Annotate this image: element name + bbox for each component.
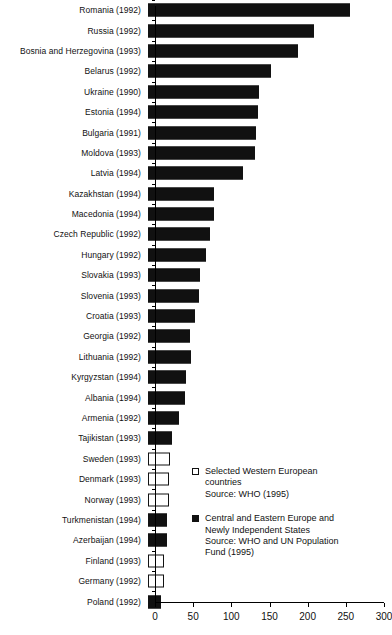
chart-row: Macedonia (1994)	[0, 204, 392, 224]
bar	[148, 473, 169, 486]
chart-row: Czech Republic (1992)	[0, 224, 392, 244]
bar-track	[148, 61, 392, 81]
chart-row: Bulgaria (1991)	[0, 122, 392, 142]
bar	[148, 106, 258, 119]
bar-track	[148, 387, 392, 407]
bar-track	[148, 428, 392, 448]
x-axis-tick-labels: 050100150200250300	[0, 610, 392, 628]
x-axis-tick-label: 300	[376, 610, 392, 623]
legend-swatch-white-square	[192, 468, 199, 475]
bar	[148, 391, 185, 404]
category-label: Latvia (1994)	[0, 168, 148, 178]
category-label: Albania (1994)	[0, 393, 148, 403]
bar	[148, 44, 298, 57]
bar	[148, 412, 179, 425]
category-label: Finland (1993)	[0, 556, 148, 566]
category-label: Kyrgyzstan (1994)	[0, 372, 148, 382]
x-axis-tick	[193, 603, 194, 607]
category-label: Sweden (1993)	[0, 454, 148, 464]
chart-row: Kazakhstan (1994)	[0, 184, 392, 204]
bar	[148, 187, 214, 200]
x-axis-tick-label: 0	[152, 610, 158, 623]
x-axis-tick	[346, 603, 347, 607]
chart-row: Estonia (1994)	[0, 102, 392, 122]
bar	[148, 248, 206, 261]
x-axis-tick	[384, 603, 385, 607]
x-axis-tick-label: 250	[337, 610, 354, 623]
x-axis-tick-label: 50	[188, 610, 199, 623]
legend-entry-western-europe: Selected Western European countries Sour…	[192, 466, 388, 500]
bar	[148, 493, 169, 506]
category-label: Norway (1993)	[0, 495, 148, 505]
chart-row: Ukraine (1990)	[0, 82, 392, 102]
category-label: Croatia (1993)	[0, 311, 148, 321]
x-axis-tick	[155, 603, 156, 607]
chart-row: Georgia (1992)	[0, 326, 392, 346]
category-label: Czech Republic (1992)	[0, 229, 148, 239]
category-label: Macedonia (1994)	[0, 209, 148, 219]
legend-line: Selected Western European	[205, 466, 388, 477]
legend-line: Fund (1995)	[205, 547, 388, 558]
category-label: Romania (1992)	[0, 5, 148, 15]
category-label: Moldova (1993)	[0, 148, 148, 158]
bar-track	[148, 82, 392, 102]
legend-line: Source: WHO (1995)	[205, 489, 388, 500]
chart-row: Albania (1994)	[0, 387, 392, 407]
category-label: Denmark (1993)	[0, 474, 148, 484]
chart-row: Slovenia (1993)	[0, 285, 392, 305]
chart-row: Belarus (1992)	[0, 61, 392, 81]
legend-line: countries	[205, 477, 388, 488]
x-axis-tick-label: 100	[223, 610, 240, 623]
bar-track	[148, 571, 392, 591]
chart-row: Moldova (1993)	[0, 143, 392, 163]
bar	[148, 452, 170, 465]
x-axis-ticks	[155, 603, 384, 608]
x-axis-tick	[231, 603, 232, 607]
bar	[148, 575, 164, 588]
bar	[148, 513, 167, 526]
x-axis-tick	[270, 603, 271, 607]
bar-track	[148, 143, 392, 163]
bar-track	[148, 285, 392, 305]
x-axis-tick-label: 150	[261, 610, 278, 623]
category-label: Bosnia and Herzegovina (1993)	[0, 46, 148, 56]
chart-row: Tajikistan (1993)	[0, 428, 392, 448]
category-label: Bulgaria (1991)	[0, 128, 148, 138]
legend-entry-central-eastern-europe: Central and Eastern Europe and Newly Ind…	[192, 513, 388, 559]
bar-track	[148, 306, 392, 326]
category-label: Slovakia (1993)	[0, 270, 148, 280]
bar	[148, 146, 255, 159]
category-label: Belarus (1992)	[0, 66, 148, 76]
category-label: Ukraine (1990)	[0, 87, 148, 97]
chart-row: Latvia (1994)	[0, 163, 392, 183]
bar	[148, 371, 186, 384]
bar-track	[148, 367, 392, 387]
bar-track	[148, 408, 392, 428]
bar	[148, 4, 350, 17]
category-label: Hungary (1992)	[0, 250, 148, 260]
category-label: Germany (1992)	[0, 576, 148, 586]
chart-row: Romania (1992)	[0, 0, 392, 20]
bar	[148, 554, 164, 567]
category-label: Azerbaijan (1994)	[0, 535, 148, 545]
legend-line: Source: WHO and UN Population	[205, 536, 388, 547]
chart-row: Armenia (1992)	[0, 408, 392, 428]
category-label: Kazakhstan (1994)	[0, 189, 148, 199]
x-axis-tick-label: 200	[299, 610, 316, 623]
bar	[148, 432, 172, 445]
chart-row: Hungary (1992)	[0, 245, 392, 265]
bar	[148, 534, 167, 547]
chart-row: Bosnia and Herzegovina (1993)	[0, 41, 392, 61]
category-label: Estonia (1994)	[0, 107, 148, 117]
category-label: Poland (1992)	[0, 597, 148, 607]
legend-swatch-black-square	[192, 515, 199, 522]
legend-line: Newly Independent States	[205, 525, 388, 536]
bar-track	[148, 122, 392, 142]
y-axis-line	[155, 6, 156, 602]
bar-track	[148, 20, 392, 40]
chart-row: Croatia (1993)	[0, 306, 392, 326]
bar	[148, 126, 256, 139]
category-label: Turkmenistan (1994)	[0, 515, 148, 525]
bar	[148, 167, 243, 180]
chart-row: Slovakia (1993)	[0, 265, 392, 285]
